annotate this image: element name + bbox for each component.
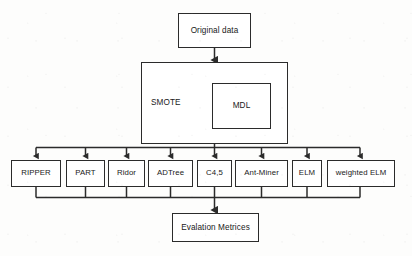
node-classifier-elm-label: ELM [299, 169, 315, 178]
node-mdl[interactable]: MDL [212, 83, 271, 129]
node-classifier-weighted-elm-label: weighted ELM [336, 169, 387, 178]
node-classifier-adtree-label: ADTree [157, 169, 184, 178]
node-classifier-ripper-label: RIPPER [21, 169, 51, 178]
node-classifier-ripper[interactable]: RIPPER [11, 160, 61, 187]
node-classifier-ant-miner-label: Ant-Miner [244, 169, 279, 178]
node-classifier-weighted-elm[interactable]: weighted ELM [327, 160, 395, 187]
flowchart-diagram: Original data SMOTE MDL RIPPER PART Rido… [0, 0, 412, 256]
node-evaluation-metrices-label: Evalation Metrices [181, 223, 250, 232]
node-original-data-label: Original data [191, 26, 239, 35]
node-smote-label: SMOTE [151, 98, 181, 107]
node-classifier-part-label: PART [75, 169, 95, 178]
node-classifier-ridor[interactable]: Ridor [108, 160, 145, 187]
node-mdl-label: MDL [233, 101, 251, 110]
node-classifier-adtree[interactable]: ADTree [148, 160, 193, 187]
node-classifier-c45[interactable]: C4,5 [197, 160, 232, 187]
node-classifier-part[interactable]: PART [66, 160, 105, 187]
node-classifier-ant-miner[interactable]: Ant-Miner [235, 160, 288, 187]
node-classifier-c45-label: C4,5 [206, 169, 223, 178]
node-original-data[interactable]: Original data [178, 13, 251, 48]
node-evaluation-metrices[interactable]: Evalation Metrices [172, 213, 259, 242]
node-classifier-ridor-label: Ridor [117, 169, 136, 178]
node-classifier-elm[interactable]: ELM [292, 160, 322, 187]
